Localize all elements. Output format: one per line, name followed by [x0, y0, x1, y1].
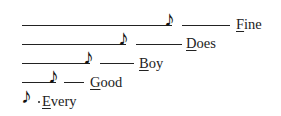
word-boy: Boy	[139, 55, 163, 71]
eighth-note-icon: ♪	[118, 27, 129, 49]
staff-line-5-tail	[182, 25, 230, 26]
dot-icon	[38, 101, 40, 103]
word-does: Does	[186, 35, 216, 51]
staff-line-2-tail	[64, 82, 84, 83]
word-every: Every	[42, 93, 77, 109]
staff-line-4	[22, 44, 126, 45]
staff-line-3-tail	[100, 63, 134, 64]
eighth-note-icon: ♪	[48, 65, 59, 87]
staff-line-4-tail	[136, 44, 182, 45]
staff-line-5	[22, 25, 172, 26]
eighth-note-icon: ♪	[21, 85, 32, 107]
eighth-note-icon: ♪	[83, 46, 94, 68]
word-fine: Fine	[236, 16, 262, 32]
word-good: Good	[90, 74, 122, 90]
eighth-note-icon: ♪	[164, 8, 175, 30]
